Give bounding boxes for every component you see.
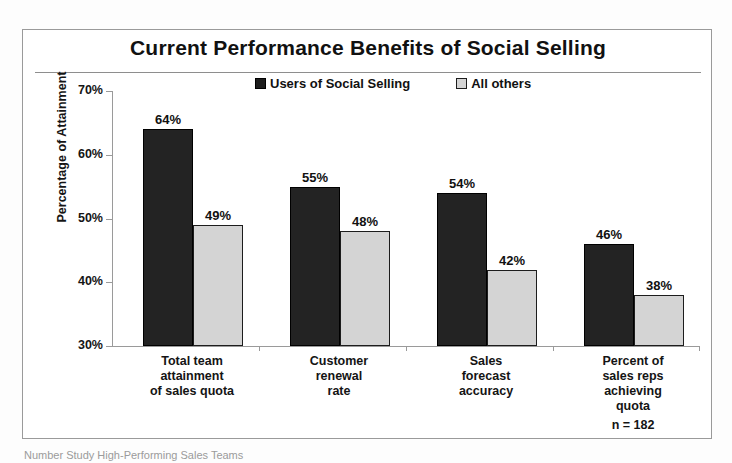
bar-value-label: 54% <box>449 176 475 191</box>
bar-all-others[interactable]: 42% <box>487 270 537 347</box>
category-line: quota <box>567 399 699 414</box>
sample-size-annotation: n = 182 <box>567 418 699 432</box>
x-category-label-2: Customer renewal rate <box>273 354 405 399</box>
y-tick-label: 30% <box>57 338 103 352</box>
bar-value-label: 38% <box>646 278 672 293</box>
x-category-label-1: Total team attainment of sales quota <box>126 354 258 399</box>
bar-value-label: 46% <box>596 227 622 242</box>
legend-swatch-icon <box>255 78 266 89</box>
legend-entry-users-of-social-selling[interactable]: Users of Social Selling <box>255 76 410 91</box>
bar-users-of-social-selling[interactable]: 46% <box>584 244 634 346</box>
legend-label: All others <box>471 76 531 91</box>
bar-users-of-social-selling[interactable]: 55% <box>290 187 340 346</box>
bar-value-label: 64% <box>155 112 181 127</box>
bar-users-of-social-selling[interactable]: 54% <box>437 193 487 346</box>
x-tick-mark <box>259 346 260 351</box>
y-tick-mark <box>106 155 113 156</box>
title-divider <box>35 72 701 73</box>
category-line: Percent of <box>567 354 699 369</box>
x-category-label-3: Sales forecast accuracy <box>420 354 552 399</box>
page-caption: Number Study High-Performing Sales Teams <box>24 449 714 463</box>
category-line: sales reps <box>567 369 699 384</box>
category-line: rate <box>273 384 405 399</box>
category-line: accuracy <box>420 384 552 399</box>
bar-value-label: 49% <box>205 208 231 223</box>
category-line: attainment <box>126 369 258 384</box>
x-category-label-4: Percent of sales reps achieving quota <box>567 354 699 414</box>
bar-value-label: 55% <box>302 170 328 185</box>
category-line: of sales quota <box>126 384 258 399</box>
category-line: Sales <box>420 354 552 369</box>
bar-value-label: 42% <box>499 253 525 268</box>
category-line: Total team <box>126 354 258 369</box>
bar-value-label: 48% <box>352 214 378 229</box>
x-tick-mark <box>553 346 554 351</box>
chart-legend: Users of Social Selling All others <box>255 76 531 91</box>
bar-users-of-social-selling[interactable]: 64% <box>143 129 193 346</box>
legend-label: Users of Social Selling <box>270 76 410 91</box>
x-tick-mark <box>406 346 407 351</box>
bar-all-others[interactable]: 48% <box>340 231 390 346</box>
category-line: Customer <box>273 354 405 369</box>
x-tick-mark <box>699 346 700 351</box>
category-line: forecast <box>420 369 552 384</box>
y-tick-label: 60% <box>57 147 103 161</box>
legend-entry-all-others[interactable]: All others <box>456 76 531 91</box>
category-line: achieving <box>567 384 699 399</box>
scanned-page: Current Performance Benefits of Social S… <box>0 0 732 463</box>
bar-all-others[interactable]: 49% <box>193 225 243 346</box>
chart-frame: Current Performance Benefits of Social S… <box>22 29 712 439</box>
chart-title: Current Performance Benefits of Social S… <box>23 36 713 60</box>
legend-swatch-icon <box>456 78 467 89</box>
y-tick-mark <box>106 219 113 220</box>
y-tick-label: 70% <box>57 83 103 97</box>
y-tick-label: 50% <box>57 211 103 225</box>
y-tick-mark <box>106 346 113 347</box>
y-tick-mark <box>106 282 113 283</box>
bar-all-others[interactable]: 38% <box>634 295 684 346</box>
y-tick-mark <box>106 91 113 92</box>
y-tick-label: 40% <box>57 274 103 288</box>
category-line: renewal <box>273 369 405 384</box>
